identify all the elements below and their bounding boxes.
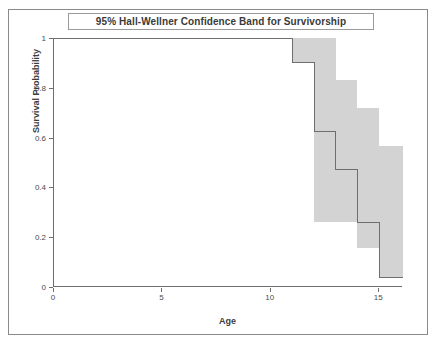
y-tick-mark: [49, 237, 53, 238]
y-axis-label: Survival Probability: [31, 26, 41, 156]
x-tick-label: 10: [255, 293, 285, 302]
y-tick-mark: [49, 88, 53, 89]
x-tick-mark: [53, 288, 54, 292]
chart-title: 95% Hall-Wellner Confidence Band for Sur…: [96, 16, 346, 27]
x-tick-label: 15: [363, 293, 393, 302]
x-tick-label: 5: [146, 293, 176, 302]
x-tick-label: 0: [38, 293, 68, 302]
y-tick-mark: [49, 38, 53, 39]
x-axis-label: Age: [53, 316, 402, 326]
confidence-band: [292, 38, 403, 287]
y-tick-mark: [49, 138, 53, 139]
x-tick-mark: [270, 288, 271, 292]
confidence-band-area: [292, 38, 403, 287]
plot-svg: [54, 38, 403, 287]
y-tick-label: 0.4: [5, 183, 46, 192]
x-tick-mark: [378, 288, 379, 292]
x-tick-mark: [161, 288, 162, 292]
survival-chart-figure: 95% Hall-Wellner Confidence Band for Sur…: [0, 0, 437, 343]
y-tick-label: 0.2: [5, 233, 46, 242]
y-tick-mark: [49, 187, 53, 188]
chart-title-box: 95% Hall-Wellner Confidence Band for Sur…: [68, 13, 374, 30]
plot-area: [53, 38, 402, 287]
y-tick-label: 0: [5, 283, 46, 292]
